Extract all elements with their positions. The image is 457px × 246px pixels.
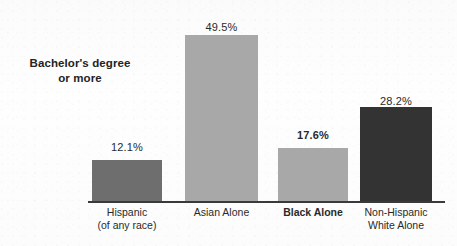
bar-label-hispanic: Hispanic (of any race) xyxy=(92,206,162,232)
bar-label-hispanic-line-1: Hispanic xyxy=(92,206,162,219)
bar-group-hispanic: 12.1% Hispanic (of any race) xyxy=(92,0,162,246)
bar-group-asian-alone: 49.5% Asian Alone xyxy=(185,0,258,246)
bar-value-black-alone: 17.6% xyxy=(278,129,348,141)
bar-label-black-alone-line-1: Black Alone xyxy=(278,206,348,219)
bar-rect-black-alone[interactable] xyxy=(278,148,348,201)
bar-label-hispanic-line-2: (of any race) xyxy=(92,219,162,232)
bar-label-asian-alone-line-1: Asian Alone xyxy=(185,206,258,219)
bar-rect-hispanic[interactable] xyxy=(92,160,162,201)
bar-value-asian-alone: 49.5% xyxy=(185,21,258,33)
bar-value-hispanic: 12.1% xyxy=(92,141,162,153)
plot-area: 12.1% Hispanic (of any race) 49.5% Asian… xyxy=(0,0,457,246)
bar-group-black-alone: 17.6% Black Alone xyxy=(278,0,348,246)
bar-rect-asian-alone[interactable] xyxy=(185,35,258,201)
bar-value-non-hispanic-white-alone: 28.2% xyxy=(360,95,432,107)
bar-label-non-hispanic-white-alone-line-2: White Alone xyxy=(360,219,432,232)
bar-label-non-hispanic-white-alone: Non-Hispanic White Alone xyxy=(360,206,432,232)
bar-label-asian-alone: Asian Alone xyxy=(185,206,258,219)
bar-label-black-alone: Black Alone xyxy=(278,206,348,219)
bar-label-non-hispanic-white-alone-line-1: Non-Hispanic xyxy=(360,206,432,219)
bar-group-non-hispanic-white-alone: 28.2% Non-Hispanic White Alone xyxy=(360,0,432,246)
bar-chart-figure: Bachelor's degree or more 12.1% Hispanic… xyxy=(0,0,457,246)
bar-rect-non-hispanic-white-alone[interactable] xyxy=(360,107,432,201)
